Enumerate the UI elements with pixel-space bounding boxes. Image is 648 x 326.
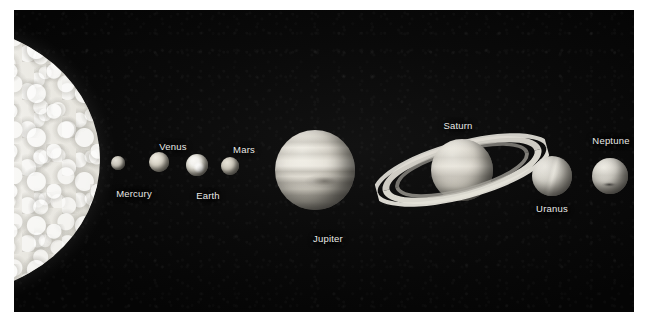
label-neptune: Neptune [592,135,629,146]
label-uranus: Uranus [536,203,568,214]
planet-venus [149,152,169,172]
planet-jupiter [275,130,355,210]
label-jupiter: Jupiter [313,233,343,244]
planet-uranus [532,156,572,196]
planet-mercury [111,156,125,170]
sun [14,24,100,296]
label-mars: Mars [233,144,255,155]
label-mercury: Mercury [116,188,152,199]
planet-mars [221,157,239,175]
planet-earth [186,154,208,176]
space-background: Mercury Venus Earth Mars Jupiter [14,10,634,312]
label-earth: Earth [196,190,220,201]
planet-neptune [592,158,628,194]
label-saturn: Saturn [443,120,472,131]
label-venus: Venus [159,141,186,152]
solar-system-figure: Mercury Venus Earth Mars Jupiter [0,0,648,326]
